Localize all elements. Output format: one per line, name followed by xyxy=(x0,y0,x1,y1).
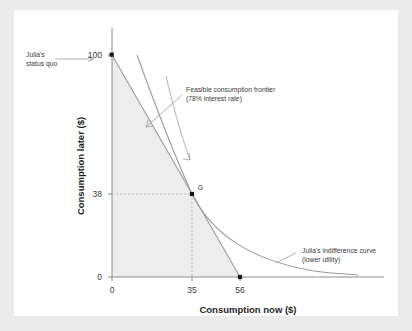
ytick-label-100: 100 xyxy=(88,50,102,60)
indifference-right-leader-line xyxy=(276,253,296,263)
status-quo-label-line2: status quo xyxy=(26,60,58,68)
y-axis-title: Consumption later ($) xyxy=(75,117,86,215)
economics-chart: 100 38 0 0 35 56 G Consumption now ($) C… xyxy=(14,10,398,316)
x-axis-title: Consumption now ($) xyxy=(199,304,296,315)
point-g-label: G xyxy=(198,184,203,191)
indifference-label-line1: Julia's indifference curve xyxy=(302,247,376,254)
frontier-label-line2: (78% interest rate) xyxy=(186,95,242,103)
frontier-leader-line xyxy=(146,95,182,127)
figure-card: 100 38 0 0 35 56 G Consumption now ($) C… xyxy=(14,10,398,316)
indifference-label-line2: (lower utility) xyxy=(302,256,340,264)
ytick-label-38: 38 xyxy=(93,189,103,199)
status-quo-marker xyxy=(110,53,114,57)
ytick-label-0: 0 xyxy=(97,272,102,282)
point-g-marker xyxy=(190,192,194,196)
xtick-label-35: 35 xyxy=(187,285,197,295)
frontier-label-line1: Feasible consumption frontier xyxy=(186,86,276,94)
status-quo-label-line1: Julia's xyxy=(26,51,45,58)
frontier-intercept-marker xyxy=(238,275,242,279)
xtick-label-0: 0 xyxy=(110,285,115,295)
xtick-label-56: 56 xyxy=(235,285,245,295)
